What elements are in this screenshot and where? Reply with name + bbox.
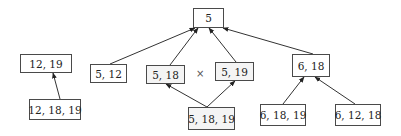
- node-n6_18: 6, 18: [292, 54, 330, 77]
- edge-arrow-n6_12_18-to-n6_18: [315, 77, 355, 104]
- node-label: 12, 18, 19: [28, 104, 81, 116]
- edge-arrow-n5_19-to-n5: [209, 28, 236, 62]
- node-n5_19: 5, 19: [215, 62, 254, 81]
- edge-arrow-n6_18-to-n5: [223, 28, 313, 54]
- node-label: 5, 12: [95, 68, 122, 80]
- node-n12_18_19: 12, 18, 19: [29, 99, 81, 120]
- node-label: 6, 18, 19: [260, 109, 307, 121]
- node-n5_18: 5, 18: [146, 65, 185, 84]
- edge-arrow-n12_18_19-to-n12_19: [53, 73, 60, 99]
- node-label: 5, 18, 19: [188, 113, 235, 125]
- edge-arrow-n5_18-to-n5: [170, 28, 198, 65]
- lattice-diagram: 55, 125, 185, 195, 18, 196, 186, 18, 196…: [0, 0, 401, 136]
- edge-arrow-n5_18_19-to-n5_19: [207, 81, 235, 107]
- node-label: 5, 18: [152, 69, 179, 81]
- edge-arrow-n5_18_19-to-n5_18: [166, 84, 207, 107]
- edge-arrow-n5_12-to-n5: [110, 28, 195, 64]
- edge-arrow-n6_18_19-to-n6_18: [283, 77, 304, 104]
- node-label: 5: [205, 12, 212, 24]
- incomparable-mark: ×: [196, 68, 204, 79]
- node-label: 5, 19: [221, 66, 248, 78]
- node-n5_12: 5, 12: [90, 64, 127, 83]
- node-label: 6, 12, 18: [335, 109, 382, 121]
- node-n5: 5: [193, 8, 224, 28]
- node-n12_19: 12, 19: [20, 54, 72, 73]
- node-n5_18_19: 5, 18, 19: [188, 107, 235, 130]
- node-n6_12_18: 6, 12, 18: [335, 104, 381, 126]
- node-label: 12, 19: [29, 58, 62, 70]
- node-n6_18_19: 6, 18, 19: [260, 104, 306, 126]
- node-label: 6, 18: [298, 60, 325, 72]
